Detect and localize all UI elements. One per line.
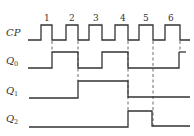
timing-diagram: 1 2 3 4 5 6 CP Q 0 Q 1 Q 2	[0, 0, 194, 136]
label-q0: Q	[6, 55, 14, 66]
pulse-number-1: 1	[44, 13, 50, 23]
label-q2-sub: 2	[14, 118, 18, 126]
label-q2: Q	[6, 113, 14, 124]
pulse-numbers: 1 2 3 4 5 6	[44, 13, 174, 23]
waveform-q1	[29, 81, 190, 98]
label-cp: CP	[6, 27, 21, 38]
waveform-cp	[28, 25, 190, 40]
pulse-number-4: 4	[120, 13, 126, 23]
label-q0-sub: 0	[14, 60, 18, 68]
pulse-number-3: 3	[93, 13, 99, 23]
reference-lines	[52, 41, 180, 127]
pulse-number-5: 5	[143, 13, 149, 23]
label-q1-sub: 1	[14, 90, 18, 98]
label-q1: Q	[6, 85, 14, 96]
waveform-q0	[28, 52, 179, 68]
pulse-number-2: 2	[69, 13, 75, 23]
pulse-number-6: 6	[168, 13, 174, 23]
signal-labels: CP Q 0 Q 1 Q 2	[6, 27, 21, 126]
waveform-q2	[29, 111, 190, 127]
